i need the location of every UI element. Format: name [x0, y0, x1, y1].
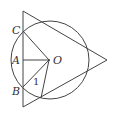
label-c: C: [12, 24, 21, 37]
label-a: A: [11, 54, 20, 67]
label-o: O: [53, 54, 62, 67]
segment-od: [41, 60, 49, 98]
geometry-diagram: C A B O 1: [0, 0, 113, 118]
center-point: [48, 59, 50, 61]
segment-co: [23, 31, 49, 60]
angle-1-label: 1: [33, 76, 39, 87]
triangle: [23, 11, 107, 107]
label-b: B: [11, 85, 20, 98]
